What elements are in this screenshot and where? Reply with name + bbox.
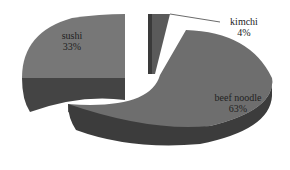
label-sushi-pct: 33% — [54, 41, 90, 52]
label-beef-noodle-pct: 63% — [208, 103, 268, 114]
label-kimchi-pct: 4% — [222, 27, 266, 38]
label-sushi-name: sushi — [54, 30, 90, 41]
label-kimchi-name: kimchi — [222, 16, 266, 27]
kimchi-leader-line — [170, 14, 220, 22]
label-beef-noodle: beef noodle 63% — [208, 92, 268, 114]
slice-sushi — [22, 14, 125, 112]
label-kimchi: kimchi 4% — [222, 16, 266, 38]
label-sushi: sushi 33% — [54, 30, 90, 52]
label-beef-noodle-name: beef noodle — [208, 92, 268, 103]
